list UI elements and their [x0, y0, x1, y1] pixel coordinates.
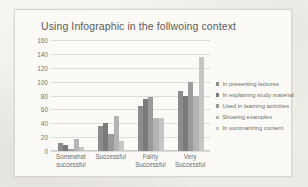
plot-area: 160140120100806040200: [51, 40, 210, 151]
y-axis-tick-label: 60: [41, 106, 48, 113]
legend-swatch-icon: [216, 104, 219, 107]
bar: [79, 147, 84, 151]
legend-label: In summarizing content: [222, 125, 283, 131]
chart-container: Using Infographic in the follwoing conte…: [14, 9, 292, 177]
legend-item: In explaining study material: [216, 92, 302, 98]
y-axis-tick-label: 120: [37, 64, 48, 71]
bar: [119, 141, 124, 151]
bar-groups: [51, 40, 210, 151]
gridline: [51, 151, 210, 152]
chart-title: Using Infographic in the follwoing conte…: [41, 20, 227, 32]
bar-group: [171, 40, 211, 151]
legend-swatch-icon: [216, 82, 219, 85]
legend-label: In explaining study material: [222, 92, 293, 98]
chart-legend: In presenting lecturesIn explaining stud…: [216, 81, 302, 136]
y-axis-tick-label: 0: [44, 148, 48, 155]
x-axis-category-label: VerySuccessful: [170, 153, 210, 168]
y-axis-tick-label: 40: [41, 120, 48, 127]
bar-group: [91, 40, 131, 151]
x-axis-category-label: Successful: [91, 153, 131, 168]
x-axis-category-label: Somewhatsuccessful: [51, 153, 91, 168]
y-axis-tick-label: 160: [37, 37, 48, 44]
legend-item: Showing examples: [216, 114, 302, 120]
legend-label: Used in learning activities: [222, 103, 289, 109]
legend-item: Used in learning activities: [216, 103, 302, 109]
y-axis-tick-label: 20: [41, 134, 48, 141]
bar: [159, 118, 164, 151]
x-axis-category-label: FairlySuccessful: [131, 153, 171, 168]
legend-label: In presenting lectures: [222, 81, 278, 87]
y-axis-tick-label: 100: [37, 78, 48, 85]
bar: [199, 57, 204, 151]
bar-group: [51, 40, 91, 151]
legend-swatch-icon: [216, 93, 219, 96]
legend-item: In presenting lectures: [216, 81, 302, 87]
legend-item: In summarizing content: [216, 125, 302, 131]
legend-swatch-icon: [216, 127, 219, 130]
y-axis-tick-label: 80: [41, 92, 48, 99]
y-axis-tick-label: 140: [37, 50, 48, 57]
x-axis-category-labels: SomewhatsuccessfulSuccessfulFairlySucces…: [51, 153, 210, 168]
legend-label: Showing examples: [222, 114, 271, 120]
screenshot-root: Using Infographic in the follwoing conte…: [0, 0, 308, 187]
legend-swatch-icon: [216, 116, 219, 119]
bar-group: [131, 40, 171, 151]
